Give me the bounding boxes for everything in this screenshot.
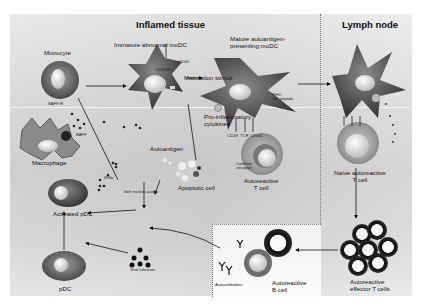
pdc-cell [42,251,86,281]
arrows [64,78,356,253]
b-cell-label: Autoreactive B cell [272,280,306,293]
autoreactive-t-cell-label: Autoreactive T cell [244,178,278,191]
macrophage-label: Macrophage [32,160,66,167]
proinflammatory-label: Pro-inflammatory cytokines [204,114,251,127]
activated-pdc-cell [48,179,88,207]
ifna-label: IFNα [104,176,113,180]
cd40l-label: CD40L [250,134,263,138]
b-cells [244,229,292,277]
tcr-label: TCR [240,134,249,138]
immature-modc-label: Immature abnormal moDC [114,42,187,49]
inflamed-tissue-title: Inflamed tissue [136,20,205,30]
antibody-glyphs [219,240,243,275]
lymph-node-title: Lymph node [342,20,398,30]
cd28-label: CD28 [227,134,238,138]
autoantigen-label: Autoantigen [150,146,183,153]
cytokine-receptor-label: Cytokine receptor [236,162,252,171]
naive-t-cell [337,122,379,164]
macrophage-cell [20,118,80,160]
naive-t-cell-label: Naïve autoreactive T cell [334,170,386,183]
cd80-86-label: CD80/86 [155,68,172,72]
mature-modc-label: Mature autoantigen- presenting moDC [230,36,285,49]
autoantibodies-label: Autoantibodies [215,283,243,287]
maturation-stimuli-label: Maturation stimuli [184,75,233,82]
effector-t-cells [340,220,398,276]
activated-pdc-label: Activated pDC [53,211,93,218]
monocyte-cell [41,61,79,99]
pdc-label: pDC [59,286,71,293]
baff-label: BAFF [76,133,87,137]
apoptotic-cell-label: Apoptotic cell [178,185,215,192]
effector-t-cells-label: Autoreactive effector T cells [350,279,390,292]
immature-modc-cell [128,44,183,110]
viral-particles [130,248,151,268]
monocyte-label: Monocyte [44,50,71,57]
diagram-graphics [0,0,428,306]
viral-infection-label: Viral infection [130,268,155,272]
self-nucleic-acids-label: Self nucleic acids [124,190,156,194]
cd40-label: CD40 [178,60,189,64]
apoptotic-cell [163,158,201,183]
baff-r-label: BAFF-R [48,102,63,106]
mhc-label: MHC self peptide [272,93,293,102]
lymph-node-modc-cell [332,44,406,118]
